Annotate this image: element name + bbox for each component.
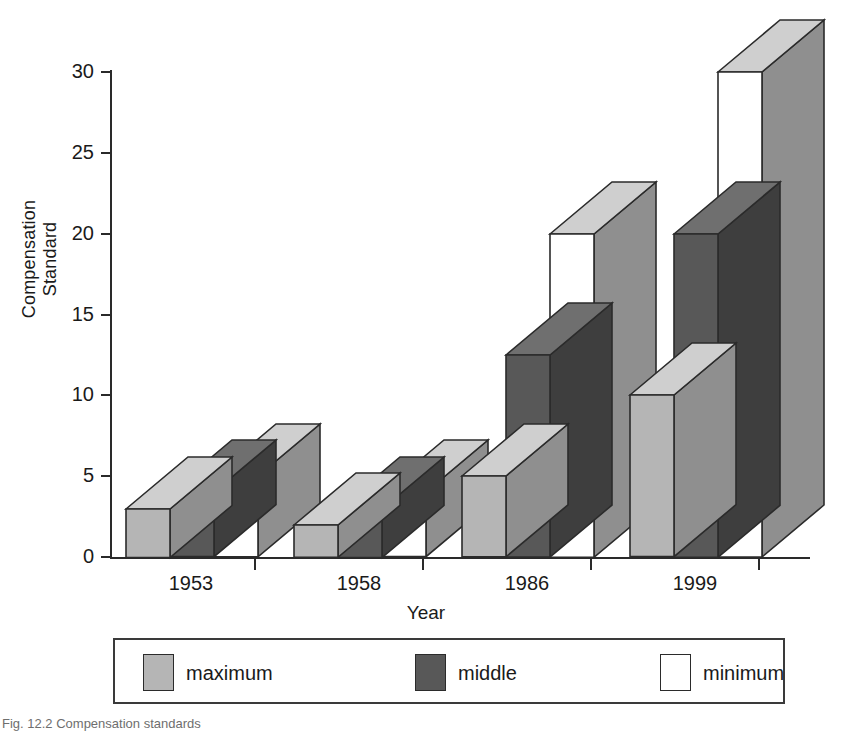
- y-tick-mark: [101, 475, 111, 477]
- y-tick-label: 30: [48, 61, 94, 81]
- x-tick-mark: [758, 559, 760, 570]
- y-axis-title-line2: Standard: [40, 164, 61, 354]
- y-tick-mark: [101, 71, 111, 73]
- bar-maximum-1953: [126, 457, 232, 558]
- legend-label-middle: middle: [458, 662, 517, 684]
- x-tick-mark: [422, 559, 424, 570]
- plot-area: Compensation Standard 051015202530 19531…: [0, 0, 852, 600]
- legend-swatch-minimum: [660, 654, 691, 691]
- x-axis-title: Year: [326, 602, 526, 624]
- legend-swatch-middle: [415, 654, 446, 691]
- legend-item-maximum[interactable]: maximum: [143, 654, 273, 691]
- bar-maximum-1958: [294, 473, 400, 557]
- figure-caption: Fig. 12.2 Compensation standards: [2, 716, 502, 732]
- x-tick-mark: [590, 559, 592, 570]
- chart-legend: maximummiddleminimum: [113, 638, 785, 704]
- legend-item-middle[interactable]: middle: [415, 654, 517, 691]
- bar-maximum-1986: [462, 424, 568, 557]
- x-tick-label: 1953: [131, 572, 251, 594]
- y-tick-mark: [101, 394, 111, 396]
- x-tick-label: 1999: [635, 572, 755, 594]
- y-tick-label: 10: [48, 384, 94, 404]
- y-tick-label: 20: [48, 223, 94, 243]
- y-tick-label: 0: [48, 546, 94, 566]
- chart-figure: Compensation Standard 051015202530 19531…: [0, 0, 852, 733]
- y-axis-title: Compensation Standard: [19, 164, 61, 354]
- y-tick-label: 5: [48, 465, 94, 485]
- legend-label-maximum: maximum: [186, 662, 273, 684]
- legend-item-minimum[interactable]: minimum: [660, 654, 784, 691]
- legend-swatch-maximum: [143, 654, 174, 691]
- x-tick-mark: [254, 559, 256, 570]
- x-tick-label: 1986: [467, 572, 587, 594]
- legend-label-minimum: minimum: [703, 662, 784, 684]
- y-tick-mark: [101, 152, 111, 154]
- y-tick-mark: [101, 233, 111, 235]
- y-tick-label: 15: [48, 304, 94, 324]
- legend-items: maximummiddleminimum: [115, 640, 783, 702]
- y-tick-mark: [101, 314, 111, 316]
- y-axis-title-line1: Compensation: [19, 164, 40, 354]
- x-tick-label: 1958: [299, 572, 419, 594]
- y-tick-label: 25: [48, 142, 94, 162]
- y-tick-mark: [101, 556, 111, 558]
- bar-maximum-1999: [630, 343, 736, 557]
